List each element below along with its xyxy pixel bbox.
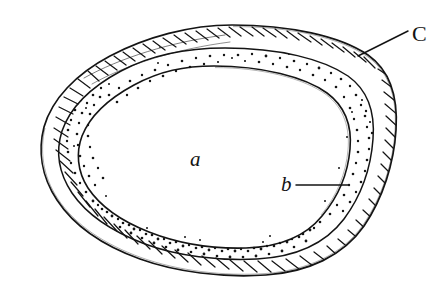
stray-ink-speck (159, 46, 161, 48)
label-a-text: a (190, 147, 201, 171)
label-c-text: C (412, 21, 427, 46)
cross-section-diagram: C b a (0, 0, 447, 301)
label-c-group: C (358, 21, 427, 56)
figure-canvas: C b a (0, 0, 447, 301)
label-c-leader-line (358, 31, 408, 56)
label-b-text: b (281, 172, 292, 196)
